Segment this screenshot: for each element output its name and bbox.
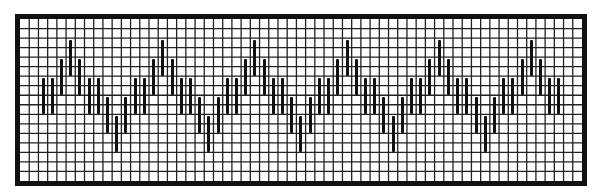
pattern-bar — [60, 59, 63, 95]
pattern-bar — [401, 97, 404, 133]
pattern-bar — [106, 97, 109, 133]
pattern-bar — [97, 78, 100, 114]
pattern-bar — [557, 78, 560, 114]
pattern-bar — [465, 78, 468, 114]
pattern-bar — [318, 78, 321, 114]
pattern-bar — [189, 78, 192, 114]
pattern-bar — [521, 59, 524, 95]
pattern-bar — [281, 78, 284, 114]
pattern-bar — [272, 78, 275, 114]
pattern-bar — [502, 78, 505, 114]
pattern-bar — [392, 116, 395, 152]
pattern-bar — [226, 78, 229, 114]
pattern-bar — [171, 59, 174, 95]
pattern-bar — [539, 59, 542, 95]
pattern-bar — [364, 78, 367, 114]
pattern-bar — [290, 97, 293, 133]
pattern-bar — [217, 97, 220, 133]
pattern-bar — [309, 97, 312, 133]
pattern-bar — [410, 78, 413, 114]
pattern-bar — [161, 40, 164, 76]
pattern-bar — [143, 78, 146, 114]
pattern-bar — [124, 97, 127, 133]
pattern-bar — [475, 97, 478, 133]
pattern-bar — [180, 78, 183, 114]
pattern-bar — [346, 40, 349, 76]
pattern-bar — [447, 59, 450, 95]
pattern-bar — [456, 78, 459, 114]
pattern-bar — [88, 78, 91, 114]
pattern-bar — [355, 59, 358, 95]
pattern-bar — [484, 116, 487, 152]
pattern-bar — [438, 40, 441, 76]
pattern-bar — [78, 59, 81, 95]
pattern-bar — [373, 78, 376, 114]
pattern-bar — [382, 97, 385, 133]
pattern-bar — [253, 40, 256, 76]
pattern-bar — [493, 97, 496, 133]
pattern-bar — [530, 40, 533, 76]
pattern-bar — [263, 59, 266, 95]
pattern-bar — [327, 78, 330, 114]
pattern-bar — [134, 78, 137, 114]
pattern-bar — [336, 59, 339, 95]
pattern-bar — [548, 78, 551, 114]
chart-frame — [15, 14, 587, 186]
pattern-bar — [51, 78, 54, 114]
pattern-bar — [207, 116, 210, 152]
pattern-bar — [235, 78, 238, 114]
pattern-bar — [419, 78, 422, 114]
pattern-bar — [69, 40, 72, 76]
grid-lines — [20, 19, 582, 181]
pattern-bar — [244, 59, 247, 95]
pattern-bar — [42, 78, 45, 114]
pattern-bar — [152, 59, 155, 95]
pattern-bar — [115, 116, 118, 152]
pattern-bar — [198, 97, 201, 133]
pattern-bar — [511, 78, 514, 114]
